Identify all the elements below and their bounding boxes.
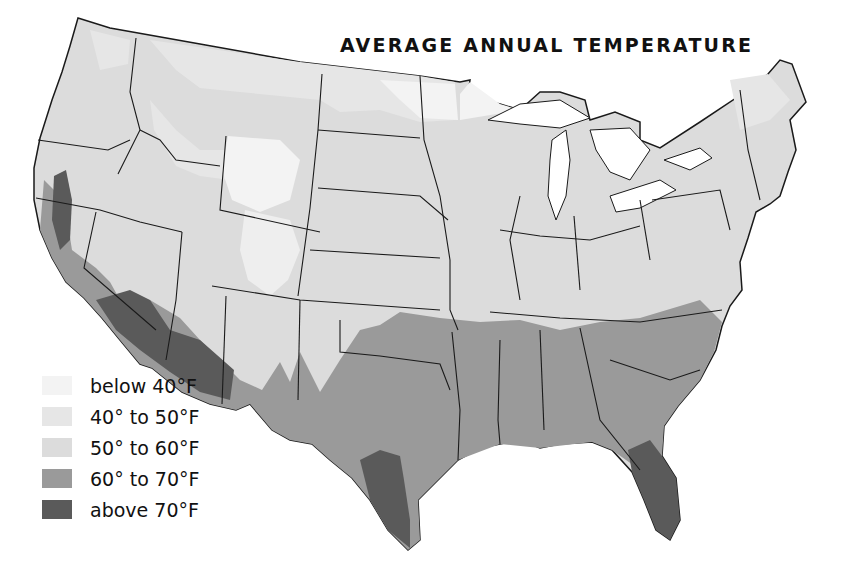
legend-item-40-50: 40° to 50°F xyxy=(42,401,199,432)
legend-label: above 70°F xyxy=(90,499,199,521)
legend-item-50-60: 50° to 60°F xyxy=(42,432,199,463)
legend-swatch xyxy=(42,438,72,457)
legend-item-below-40: below 40°F xyxy=(42,370,199,401)
legend: below 40°F 40° to 50°F 50° to 60°F 60° t… xyxy=(42,370,199,525)
legend-label: 40° to 50°F xyxy=(90,406,199,428)
legend-swatch xyxy=(42,500,72,519)
legend-swatch xyxy=(42,376,72,395)
legend-swatch xyxy=(42,469,72,488)
map-title: AVERAGE ANNUAL TEMPERATURE xyxy=(340,34,753,56)
legend-swatch xyxy=(42,407,72,426)
legend-item-60-70: 60° to 70°F xyxy=(42,463,199,494)
legend-label: 50° to 60°F xyxy=(90,437,199,459)
legend-item-above-70: above 70°F xyxy=(42,494,199,525)
legend-label: 60° to 70°F xyxy=(90,468,199,490)
legend-label: below 40°F xyxy=(90,375,197,397)
temperature-map: AVERAGE ANNUAL TEMPERATURE below 40°F 40… xyxy=(0,0,854,569)
florida-above-70-zone xyxy=(628,440,680,540)
